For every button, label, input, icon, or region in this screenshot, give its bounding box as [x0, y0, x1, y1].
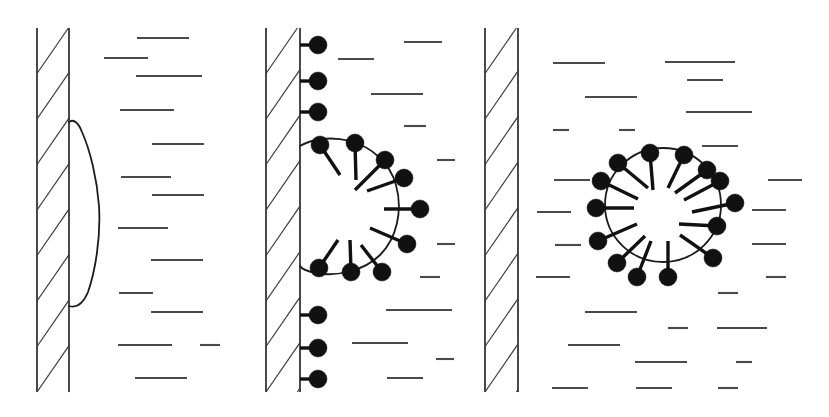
membrane-receptor-dot: [641, 144, 659, 162]
wall-hatch-line: [485, 162, 518, 210]
membrane-outline: [69, 121, 99, 307]
membrane-receptor-dot: [704, 249, 722, 267]
wall-hatch-line: [266, 297, 300, 346]
membrane-receptor-dot: [609, 154, 627, 172]
vesicle-detachment-diagram: [0, 0, 829, 417]
membrane-receptor-dot: [711, 172, 729, 190]
wall-hatch-line: [485, 344, 518, 392]
wall-hatch-line: [266, 28, 297, 74]
wall-receptor-dot: [309, 370, 327, 388]
wall-hatch-line: [37, 164, 69, 210]
panel-1: [37, 28, 220, 392]
membrane-receptor-dot: [608, 254, 626, 272]
wall-hatch-line: [485, 299, 518, 347]
wall-hatch-line: [37, 300, 69, 346]
wall-hatch-line: [37, 73, 69, 119]
wall-receptor-dot: [309, 339, 327, 357]
membrane-receptor-dot: [708, 217, 726, 235]
membrane-receptor-dot: [587, 199, 605, 217]
wall-hatch-line: [485, 253, 518, 301]
wall-hatch-line: [485, 208, 518, 256]
wall-hatch-line: [266, 161, 300, 210]
wall-receptor-dot: [309, 72, 327, 90]
wall-hatch-line: [37, 28, 68, 74]
wall-receptor-dot: [309, 36, 327, 54]
wall-hatch-line: [68, 391, 69, 392]
wall-hatch-line: [266, 206, 300, 255]
wall-2: [266, 28, 300, 392]
membrane-receptor-dot: [675, 146, 693, 164]
membrane-receptor-dot: [628, 268, 646, 286]
membrane-receptor-dot: [395, 169, 413, 187]
membrane-receptor-dot: [398, 235, 416, 253]
wall-receptor-dot: [309, 306, 327, 324]
membrane-receptor-dot: [592, 172, 610, 190]
vesicle-3-free-vesicle: [587, 144, 744, 286]
wall-hatch-line: [266, 252, 300, 301]
membrane-receptor-dot: [373, 263, 391, 281]
wall-hatch-line: [485, 117, 518, 165]
panel-3: [485, 28, 802, 392]
membrane-receptor-dot: [726, 194, 744, 212]
wall-hatch-line: [485, 28, 516, 74]
wall-hatch-line: [37, 209, 69, 255]
membrane-receptor-dot: [589, 232, 607, 250]
wall-receptor-dot: [309, 103, 327, 121]
vesicle-1-bulge: [69, 121, 99, 307]
ligand-dash-field-1: [104, 38, 220, 378]
wall-hatch-line: [266, 115, 300, 164]
membrane-receptor-dot: [311, 136, 329, 154]
membrane-receptor-dot: [310, 259, 328, 277]
membrane-receptor-dot: [411, 200, 429, 218]
ligand-dash-field-3: [536, 62, 802, 388]
wall-hatch-line: [37, 346, 69, 392]
wall-hatch-line: [37, 255, 69, 301]
figure-root: [0, 0, 829, 417]
membrane-receptor-dot: [346, 134, 364, 152]
vesicle-2-coated-bud: [300, 36, 429, 388]
wall-3: [485, 28, 518, 392]
wall-hatch-line: [266, 343, 300, 392]
wall-hatch-line: [37, 118, 69, 164]
panel-2: [266, 28, 455, 392]
wall-hatch-line: [266, 70, 300, 119]
membrane-receptor-dot: [342, 263, 360, 281]
membrane-receptor-dot: [376, 151, 394, 169]
wall-1: [37, 28, 69, 392]
membrane-receptor-dot: [659, 268, 677, 286]
wall-hatch-line: [485, 71, 518, 119]
